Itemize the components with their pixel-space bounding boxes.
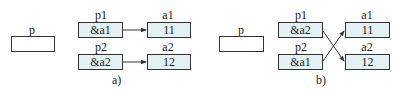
- pointer-swap-diagram: p p1 &a1 p2 &a2 a1 11 a2 12 a) p p1 &a2 …: [0, 0, 399, 91]
- pointer-arrows: [0, 0, 399, 91]
